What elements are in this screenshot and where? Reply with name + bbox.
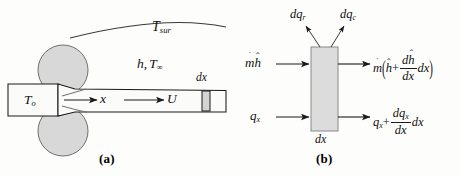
dq-convection-label: dqc — [340, 8, 356, 22]
panel-a-caption: (a) — [99, 151, 115, 167]
dq-radiation-label: dqr — [290, 8, 306, 22]
control-volume-width-label: dx — [315, 133, 326, 145]
dq-r-arrow — [306, 26, 320, 47]
enthalpy-out-expression: ̇m(̂h+d̂hdxdx) — [373, 54, 433, 84]
convection-condition-label: h,T∞ — [137, 57, 163, 73]
figure-vector-layer — [0, 0, 460, 176]
velocity-label: U — [167, 92, 177, 106]
conduction-out-expression: qx+dqxdxdx — [373, 107, 424, 138]
initial-temperature-label: To — [24, 93, 36, 109]
figure-container: Tsur h,T∞ To x U dx (a) dqr dqc ̇m̂h qx … — [0, 0, 460, 176]
control-volume-icon — [311, 47, 338, 131]
surroundings-temperature-label: Tsur — [152, 20, 171, 35]
dx-element-icon — [202, 91, 210, 111]
x-axis-label: x — [100, 92, 106, 106]
conduction-in-label: qx — [250, 109, 260, 124]
enthalpy-in-label: ̇m̂h — [245, 56, 261, 69]
dx-element-label: dx — [196, 72, 207, 84]
panel-b-caption: (b) — [316, 151, 333, 167]
dq-c-arrow — [331, 26, 344, 47]
surroundings-arc — [70, 22, 226, 38]
